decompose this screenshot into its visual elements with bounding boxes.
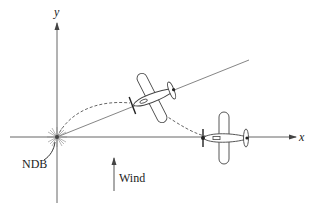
diagram-figure <box>0 0 316 214</box>
y-axis-label: y <box>54 6 59 18</box>
diagram-canvas: y x NDB Wind <box>0 0 316 214</box>
airplane-on-course-line <box>123 64 185 131</box>
wind-label: Wind <box>119 172 145 184</box>
ndb-beacon <box>47 127 67 147</box>
ndb-label: NDB <box>22 158 47 170</box>
airplane-on-x-axis <box>201 112 249 164</box>
x-axis-label: x <box>299 131 304 143</box>
